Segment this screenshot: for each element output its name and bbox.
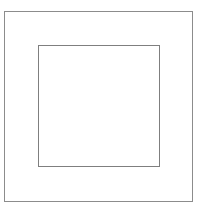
figure-canvas <box>0 0 199 212</box>
inner-square <box>38 45 160 167</box>
figure-layer <box>0 0 199 212</box>
